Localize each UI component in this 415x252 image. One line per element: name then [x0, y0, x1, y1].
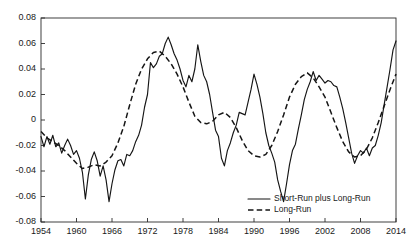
- x-tick-label: 1966: [102, 226, 122, 236]
- x-tick-label: 2008: [350, 226, 370, 236]
- x-tick-label: 2014: [386, 226, 406, 236]
- chart-figure: 0.080.060.040.020-0.02-0.04-0.06-0.08 19…: [0, 0, 415, 252]
- x-tick-label: 1978: [173, 226, 193, 236]
- x-tick-label: 1984: [208, 226, 228, 236]
- y-tick-label: 0.06: [18, 38, 36, 48]
- y-tick-label: 0: [31, 114, 36, 124]
- y-tick-label: 0.08: [18, 12, 36, 22]
- x-tick-label: 1996: [279, 226, 299, 236]
- x-tick-label: 1954: [31, 226, 51, 236]
- legend-label: Long-Run: [274, 204, 312, 214]
- chart-background: [0, 0, 415, 252]
- y-tick-label: -0.08: [15, 216, 36, 226]
- x-tick-label: 1960: [66, 226, 86, 236]
- y-tick-label: -0.04: [15, 165, 36, 175]
- y-tick-label: 0.02: [18, 89, 36, 99]
- y-tick-label: 0.04: [18, 63, 36, 73]
- x-tick-label: 1990: [244, 226, 264, 236]
- x-tick-label: 1972: [137, 226, 157, 236]
- x-tick-label: 2002: [315, 226, 335, 236]
- line-chart: 0.080.060.040.020-0.02-0.04-0.06-0.08 19…: [0, 0, 415, 252]
- y-tick-label: -0.06: [15, 191, 36, 201]
- y-tick-label: -0.02: [15, 140, 36, 150]
- legend-label: Short-Run plus Long-Run: [274, 193, 371, 203]
